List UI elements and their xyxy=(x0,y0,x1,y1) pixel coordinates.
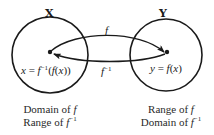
left-caption: Domain of f Range of f−1 xyxy=(14,103,86,129)
point-y xyxy=(165,50,169,54)
left-caption-line1: Domain of f xyxy=(14,103,86,116)
right-caption: Range of f Domain of f−1 xyxy=(135,103,207,129)
set-x: X x = f−1(f(x)) xyxy=(12,7,88,93)
arrow-f-label: f xyxy=(105,24,110,36)
set-x-label: X xyxy=(45,7,54,20)
set-x-circle xyxy=(12,17,88,93)
point-x-label: x = f−1(f(x)) xyxy=(20,64,71,77)
set-y-label: Y xyxy=(158,7,167,20)
arrow-f xyxy=(51,35,164,52)
set-y-circle xyxy=(130,19,202,91)
right-caption-line2: Domain of f−1 xyxy=(135,116,207,129)
right-caption-line1: Range of f xyxy=(135,103,207,116)
set-y: Y y = f(x) xyxy=(130,7,202,91)
arrow-f-inverse xyxy=(54,54,165,62)
left-caption-line2: Range of f−1 xyxy=(14,116,86,129)
point-y-label: y = f(x) xyxy=(149,62,182,75)
arrow-f-inverse-label: f−1 xyxy=(101,65,112,77)
